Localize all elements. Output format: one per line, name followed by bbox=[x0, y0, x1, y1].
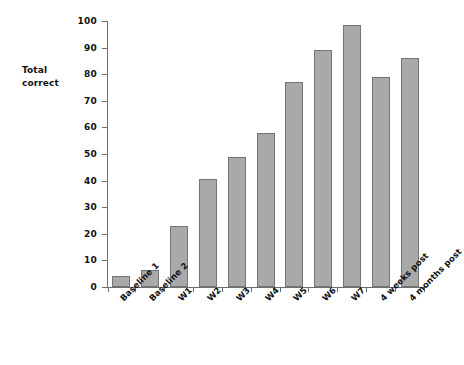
y-tick-label-10: 10 bbox=[69, 255, 97, 265]
bar bbox=[343, 25, 361, 287]
y-tick-label-70: 70 bbox=[69, 96, 97, 106]
y-tick-30 bbox=[102, 207, 107, 208]
y-tick-label-80: 80 bbox=[69, 69, 97, 79]
bar bbox=[285, 82, 303, 287]
y-tick-90 bbox=[102, 48, 107, 49]
y-tick-label-20: 20 bbox=[69, 229, 97, 239]
y-tick-10 bbox=[102, 260, 107, 261]
bar bbox=[372, 77, 390, 287]
bar bbox=[257, 133, 275, 287]
y-tick-label-100: 100 bbox=[69, 16, 97, 26]
y-tick-20 bbox=[102, 234, 107, 235]
y-tick-label-60: 60 bbox=[69, 122, 97, 132]
y-tick-60 bbox=[102, 127, 107, 128]
bar bbox=[401, 58, 419, 287]
y-tick-70 bbox=[102, 101, 107, 102]
y-tick-label-50: 50 bbox=[69, 149, 97, 159]
y-tick-0 bbox=[102, 287, 107, 288]
y-tick-40 bbox=[102, 181, 107, 182]
y-tick-80 bbox=[102, 74, 107, 75]
y-tick-label-40: 40 bbox=[69, 176, 97, 186]
x-tick-origin bbox=[108, 288, 109, 292]
y-tick-50 bbox=[102, 154, 107, 155]
bar bbox=[314, 50, 332, 287]
bar bbox=[228, 157, 246, 287]
y-tick-label-0: 0 bbox=[69, 282, 97, 292]
y-tick-label-30: 30 bbox=[69, 202, 97, 212]
y-tick-label-90: 90 bbox=[69, 43, 97, 53]
bar bbox=[199, 179, 217, 287]
y-axis-line bbox=[107, 21, 108, 288]
y-tick-100 bbox=[102, 21, 107, 22]
